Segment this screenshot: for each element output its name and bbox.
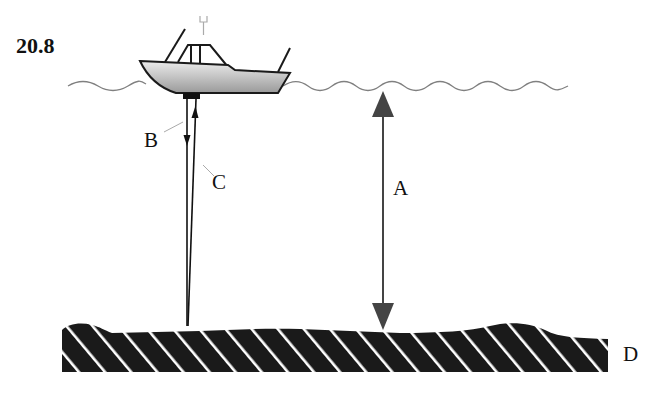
label-c-returning-echo: C bbox=[212, 170, 226, 195]
figure-number: 20.8 bbox=[16, 33, 55, 59]
transducer bbox=[183, 93, 200, 99]
seabed bbox=[62, 323, 608, 372]
label-b-outgoing-pulse: B bbox=[144, 128, 158, 153]
returning-arrowhead bbox=[192, 106, 199, 118]
label-a-depth: A bbox=[393, 176, 408, 201]
label-d-seabed: D bbox=[623, 342, 638, 367]
echo-sounding-diagram bbox=[0, 0, 671, 399]
arrowhead-down bbox=[372, 303, 394, 330]
depth-arrow bbox=[372, 91, 394, 330]
boat bbox=[140, 16, 290, 99]
water-surface bbox=[68, 81, 568, 90]
outgoing-arrowhead bbox=[184, 135, 191, 146]
leader-b bbox=[164, 122, 183, 132]
arrowhead-up bbox=[372, 91, 394, 117]
sonar-paths bbox=[164, 99, 214, 326]
